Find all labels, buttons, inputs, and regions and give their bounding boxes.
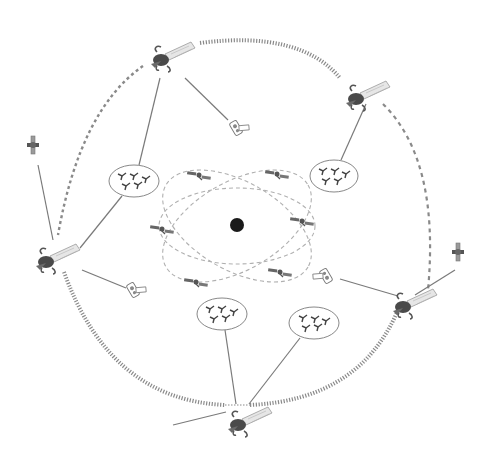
geo-satellite-icon xyxy=(151,42,195,72)
leo-satellite-icon xyxy=(187,171,211,180)
leo-satellite-icon xyxy=(265,170,289,179)
satellite-network-diagram: satellite-network xyxy=(0,0,495,450)
tumbling-satellite-icon xyxy=(311,267,333,288)
leo-satellite-icon xyxy=(268,268,292,277)
geo-satellite-icon xyxy=(228,407,272,437)
small-satellite-icon xyxy=(27,136,39,154)
earth-icon xyxy=(230,218,244,232)
user-cluster-3 xyxy=(197,298,247,330)
user-cluster-2 xyxy=(310,160,358,192)
small-satellite-icon xyxy=(452,243,464,261)
geo-satellite-icon xyxy=(36,244,80,274)
user-cluster-1 xyxy=(109,165,159,197)
tumbling-satellite-icon xyxy=(126,278,148,299)
tumbling-satellite-icon xyxy=(229,116,251,137)
leo-satellite-icon xyxy=(184,278,208,287)
isl-links xyxy=(58,40,430,405)
user-cluster-4 xyxy=(289,307,339,339)
geo-satellite-icon xyxy=(346,81,390,111)
geo-satellite-icon xyxy=(393,289,437,319)
